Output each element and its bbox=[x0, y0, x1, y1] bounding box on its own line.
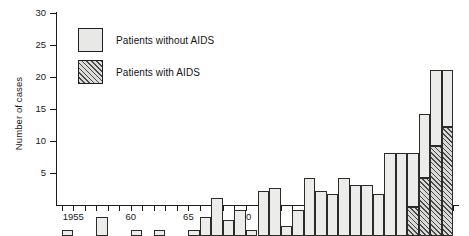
bar-segment-without-aids bbox=[384, 153, 396, 236]
bar-segment-without-aids bbox=[338, 178, 350, 236]
bar-segment-without-aids bbox=[131, 230, 143, 236]
bar-segment-without-aids bbox=[223, 220, 235, 236]
bar-group bbox=[350, 31, 362, 236]
bar-segment-without-aids bbox=[211, 198, 223, 236]
bar-group bbox=[292, 31, 304, 236]
bar-group bbox=[442, 31, 454, 236]
bar-segment-without-aids bbox=[200, 217, 212, 236]
bar-segment-with-aids bbox=[442, 127, 454, 236]
bar-segment-without-aids bbox=[96, 217, 108, 236]
bar-group bbox=[234, 31, 246, 236]
y-tick-label-20: 20 bbox=[4, 72, 46, 82]
bar-group bbox=[373, 31, 385, 236]
bar-group bbox=[361, 31, 373, 236]
bar-segment-without-aids bbox=[361, 185, 373, 236]
y-tick-label-5: 5 bbox=[4, 168, 46, 178]
bar-group bbox=[188, 31, 200, 236]
y-tick-label-30: 30 bbox=[4, 8, 46, 18]
legend-swatch-hatch-icon bbox=[78, 60, 103, 84]
bar-segment-without-aids bbox=[62, 230, 74, 236]
bar-group bbox=[384, 31, 396, 236]
bar-group bbox=[131, 31, 143, 236]
bar-segment-without-aids bbox=[304, 178, 316, 236]
bar-segment-without-aids bbox=[419, 114, 431, 178]
bar-group bbox=[281, 31, 293, 236]
bar-chart-figure: Number of cases 51015202530 195560657075… bbox=[0, 0, 469, 236]
bar-segment-without-aids bbox=[315, 191, 327, 236]
y-tick-label-15: 15 bbox=[4, 104, 46, 114]
bar-segment-with-aids bbox=[430, 146, 442, 236]
bar-segment-without-aids bbox=[396, 153, 408, 236]
bar-segment-without-aids bbox=[292, 210, 304, 236]
bar-group bbox=[315, 31, 327, 236]
y-tick-label-10: 10 bbox=[4, 136, 46, 146]
x-tick-1959 bbox=[119, 206, 120, 211]
y-tick-10 bbox=[50, 141, 57, 142]
legend-swatch-solid-icon bbox=[78, 28, 103, 52]
bar-group bbox=[430, 31, 442, 236]
bar-group bbox=[407, 31, 419, 236]
y-tick-15 bbox=[50, 109, 57, 110]
bar-group bbox=[223, 31, 235, 236]
y-tick-25 bbox=[50, 45, 57, 46]
bar-group bbox=[62, 31, 74, 236]
bar-segment-without-aids bbox=[430, 70, 442, 147]
y-tick-5 bbox=[50, 173, 57, 174]
bar-group bbox=[258, 31, 270, 236]
bar-group bbox=[200, 31, 212, 236]
bar-group bbox=[211, 31, 223, 236]
bar-group bbox=[419, 31, 431, 236]
y-tick-label-25: 25 bbox=[4, 40, 46, 50]
bar-segment-without-aids bbox=[154, 230, 166, 236]
x-tick-label-1955: 1955 bbox=[53, 212, 93, 222]
bar-segment-without-aids bbox=[442, 70, 454, 128]
bar-group bbox=[327, 31, 339, 236]
y-tick-30 bbox=[50, 13, 57, 14]
bar-segment-without-aids bbox=[246, 230, 258, 236]
bar-segment-without-aids bbox=[373, 194, 385, 236]
bar-segment-without-aids bbox=[258, 191, 270, 236]
legend-label-with-aids: Patients with AIDS bbox=[116, 67, 200, 78]
bar-group bbox=[304, 31, 316, 236]
bar-group bbox=[338, 31, 350, 236]
bar-group bbox=[269, 31, 281, 236]
bar-group bbox=[396, 31, 408, 236]
bar-segment-without-aids bbox=[269, 188, 281, 236]
y-tick-20 bbox=[50, 77, 57, 78]
bar-segment-without-aids bbox=[407, 153, 419, 207]
legend-label-without-aids: Patients without AIDS bbox=[116, 35, 214, 46]
bar-segment-without-aids bbox=[188, 230, 200, 236]
bar-segment-without-aids bbox=[327, 194, 339, 236]
bar-group bbox=[154, 31, 166, 236]
x-tick-1956 bbox=[85, 206, 86, 211]
bar-segment-without-aids bbox=[281, 226, 293, 236]
bar-segment-with-aids bbox=[407, 207, 419, 236]
bar-segment-without-aids bbox=[350, 185, 362, 236]
x-tick-1958 bbox=[108, 206, 109, 211]
x-tick-1964 bbox=[177, 206, 178, 211]
bar-group bbox=[246, 31, 258, 236]
bar-segment-without-aids bbox=[234, 210, 246, 236]
bar-segment-with-aids bbox=[419, 178, 431, 236]
